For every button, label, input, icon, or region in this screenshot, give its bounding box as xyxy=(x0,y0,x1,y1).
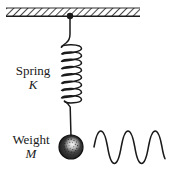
weight-label-word: Weight xyxy=(2,133,60,147)
weight-sphere xyxy=(59,135,83,159)
weight-label-symbol: M xyxy=(2,147,60,161)
sphere-gloss xyxy=(64,137,81,153)
helical-spring xyxy=(62,45,82,103)
lower-wire xyxy=(65,101,72,137)
spring-label-word: Spring xyxy=(7,64,59,78)
spring-mass-oscillation-figure: Spring K Weight M xyxy=(0,0,172,178)
spring-label: Spring K xyxy=(7,64,59,91)
spring-label-symbol: K xyxy=(7,78,59,92)
sine-wave xyxy=(94,131,165,163)
upper-wire xyxy=(62,17,71,47)
ceiling-hatch-fill xyxy=(6,8,140,16)
weight-label: Weight M xyxy=(2,133,60,160)
spring-coil xyxy=(62,45,82,103)
